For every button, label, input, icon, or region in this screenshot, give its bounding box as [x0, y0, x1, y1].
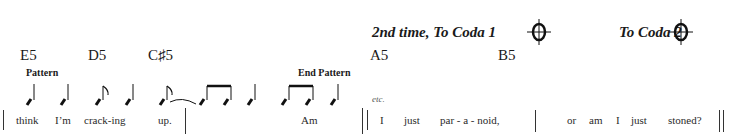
chord-e5: E5: [20, 47, 37, 64]
lyric-word: just: [404, 114, 420, 126]
etc-label: etc.: [372, 94, 385, 104]
coda-sign-icon: [668, 18, 694, 46]
beamed-eighths-icon: [200, 86, 231, 105]
beamed-eighths-icon: [282, 86, 313, 105]
final-double-barline: [723, 110, 724, 132]
barline: [362, 108, 363, 134]
quarter-slash-icon: [27, 84, 34, 105]
lyric-word: think: [16, 114, 39, 126]
tie-icon: [170, 99, 196, 104]
lyric-word: am: [589, 114, 602, 126]
lyric-word: I’m: [55, 114, 71, 126]
lyric-word: up.: [158, 114, 172, 126]
chord-a5: A5: [370, 47, 388, 64]
chord-d5: D5: [88, 47, 106, 64]
lyric-word: just: [631, 114, 647, 126]
lyric-word: I: [380, 114, 384, 126]
lyric-word: Am: [301, 114, 318, 126]
chord-c-sharp-5: C♯5: [148, 47, 173, 64]
barline: [3, 110, 4, 130]
barline: [367, 110, 368, 130]
quarter-slash-icon: [248, 84, 255, 105]
barline: [535, 110, 536, 132]
lyric-word: crack-ing: [84, 114, 126, 126]
pattern-start-label: Pattern: [26, 67, 58, 78]
quarter-slash-icon: [61, 84, 68, 105]
coda-sign-icon: [526, 18, 552, 46]
final-double-barline: [719, 110, 720, 132]
quarter-slash-icon: [126, 84, 133, 105]
lyric-word: or: [567, 114, 576, 126]
lyric-word: I: [616, 114, 620, 126]
lyric-word: par - a - noid,: [440, 114, 500, 126]
lyric-word: stoned?: [668, 114, 702, 126]
pattern-end-label: End Pattern: [298, 67, 351, 78]
quarter-slash-icon: [331, 84, 338, 105]
chord-b5: B5: [498, 47, 516, 64]
eighth-slash-icon: [96, 86, 108, 105]
coda-1-text: 2nd time, To Coda 1: [372, 24, 496, 41]
barline: [185, 108, 186, 134]
rhythm-slash-notation: [0, 80, 360, 110]
